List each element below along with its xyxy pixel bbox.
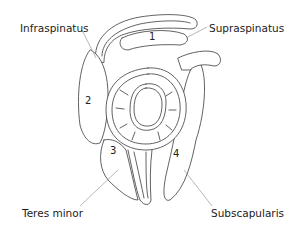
glenoid-fossa [130, 84, 166, 131]
number-infraspinatus: 2 [85, 95, 91, 106]
number-subscapularis: 4 [173, 148, 179, 159]
rotator-cuff-diagram: Infraspinatus Supraspinatus Teres minor … [0, 0, 293, 233]
scapula-inner-line-2 [146, 152, 148, 198]
number-supraspinatus: 1 [149, 31, 155, 42]
label-subscapularis: Subscapularis [211, 207, 284, 219]
label-infraspinatus: Infraspinatus [20, 22, 89, 34]
leader-teres-minor [80, 170, 118, 206]
label-supraspinatus: Supraspinatus [209, 22, 284, 34]
infraspinatus-muscle [78, 50, 108, 144]
label-teres-minor: Teres minor [21, 207, 84, 219]
leader-subscapularis [184, 170, 212, 206]
number-teres-minor: 3 [110, 145, 116, 156]
